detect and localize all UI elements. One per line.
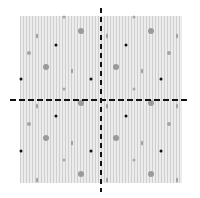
gray-dot-marker (43, 135, 49, 141)
gray-dot-marker (106, 104, 108, 109)
gray-dot-marker (36, 178, 38, 183)
gray-dot-marker (63, 88, 66, 91)
gray-dot-marker (71, 141, 73, 146)
black-dot-marker (160, 78, 163, 81)
gray-dot-marker (27, 51, 31, 55)
gray-dot-marker (113, 64, 119, 70)
gray-dot-marker (43, 64, 49, 70)
gray-dot-marker (141, 141, 143, 146)
gray-dot-marker (78, 171, 84, 177)
gray-dot-marker (148, 171, 154, 177)
gray-dot-marker (63, 16, 66, 19)
gray-dot-marker (133, 16, 136, 19)
gray-dot-marker (27, 122, 31, 126)
gray-dot-marker (176, 178, 178, 183)
black-dot-marker (125, 115, 128, 118)
black-dot-marker (20, 150, 23, 153)
gray-dot-marker (113, 135, 119, 141)
gray-dot-marker (176, 34, 178, 39)
black-dot-marker (55, 44, 58, 47)
gray-dot-marker (141, 69, 143, 74)
horizontal-dashed-axis (10, 99, 188, 101)
gray-dot-marker (133, 159, 136, 162)
black-dot-marker (160, 150, 163, 153)
gray-dot-marker (133, 88, 136, 91)
gray-dot-marker (63, 159, 66, 162)
gray-dot-marker (71, 69, 73, 74)
black-dot-marker (55, 115, 58, 118)
black-dot-marker (20, 78, 23, 81)
gray-dot-marker (36, 34, 38, 39)
gray-dot-marker (106, 34, 108, 39)
gray-dot-marker (106, 178, 108, 183)
gray-dot-marker (78, 28, 84, 34)
gray-dot-marker (176, 104, 178, 109)
gray-dot-marker (167, 122, 171, 126)
gray-dot-marker (167, 51, 171, 55)
black-dot-marker (90, 150, 93, 153)
gray-dot-marker (36, 104, 38, 109)
black-dot-marker (90, 78, 93, 81)
black-dot-marker (125, 44, 128, 47)
gray-dot-marker (148, 28, 154, 34)
